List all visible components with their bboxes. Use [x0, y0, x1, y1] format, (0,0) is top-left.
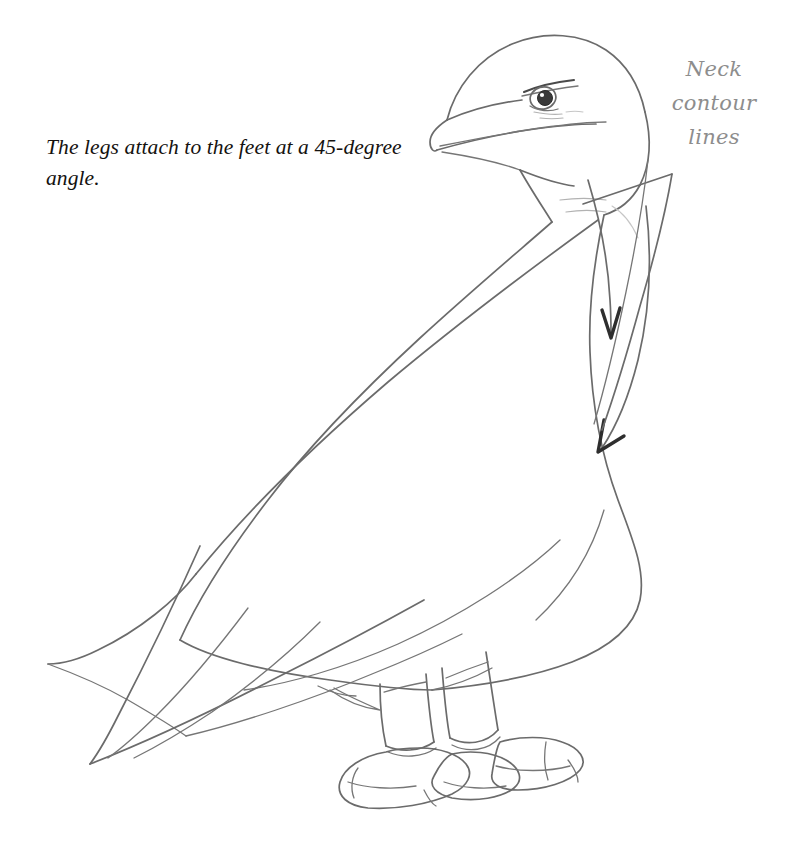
center-toe-outline [432, 752, 520, 800]
eye-pupil [538, 91, 553, 106]
bird-body-group [180, 199, 641, 691]
neck-contour-arrow-lower [598, 206, 649, 452]
tail-upper-feather-return [48, 664, 186, 736]
cheek-feather-mark-1 [534, 112, 562, 114]
beak-gape-under [442, 152, 520, 170]
bird-tail-group [48, 546, 492, 764]
right-foot-outline [492, 738, 583, 791]
neck-contour-annotation: Neck contour lines [648, 52, 780, 154]
beak-upper-outline [430, 120, 447, 151]
tail-feather-split-1 [108, 608, 248, 758]
wing-top-line [196, 220, 598, 574]
annotation-line-3: lines [648, 120, 780, 154]
neck-contour-mark-2 [566, 211, 606, 213]
left-foot-outline [339, 748, 469, 808]
tail-upper-feather-edge [48, 574, 196, 664]
beak-top-ridge [447, 100, 522, 120]
wing-lower-line [244, 540, 560, 690]
annotation-line-1: Neck [648, 52, 780, 86]
beak-lower-edge [437, 124, 596, 150]
tail-long-stroke-1 [90, 546, 200, 764]
bird-legs-group [380, 652, 500, 756]
arrow-upper-shaft [588, 180, 611, 334]
chin-throat-line [520, 170, 552, 222]
eye-highlight [540, 93, 544, 97]
bird-head-group [430, 35, 649, 222]
drawing-page: .pl { fill:none; stroke:#6b6b6b; stroke-… [0, 0, 790, 850]
head-nape-line [604, 185, 640, 215]
breast-front-outline [180, 222, 552, 640]
right-foot-toe-line-1 [496, 766, 570, 771]
leader-line-upper [583, 174, 672, 204]
right-leg-ankle-band-2 [452, 737, 500, 750]
left-foot-toe-line-1 [348, 782, 416, 788]
left-leg-inner [426, 674, 434, 742]
right-leg-inner [486, 652, 498, 730]
tail-under-edge [186, 634, 462, 736]
right-foot-toe-line-2 [545, 742, 548, 780]
right-leg-top-shade [446, 662, 488, 678]
cheek-feather-mark-3 [566, 111, 583, 112]
right-leg-ankle-band-1 [450, 730, 498, 743]
tail-feather-split-2 [134, 622, 320, 758]
left-leg-outer [380, 684, 386, 746]
head-crown-outline [447, 35, 645, 120]
neck-contour-arrow-upper [588, 180, 620, 338]
annotation-line-2: contour [648, 86, 780, 120]
wing-tip-fold [536, 510, 604, 620]
undertail-small-feather [330, 688, 380, 710]
instruction-caption: The legs attach to the feet at a 45-degr… [46, 132, 416, 193]
cheek-feather-mark-2 [540, 118, 563, 119]
